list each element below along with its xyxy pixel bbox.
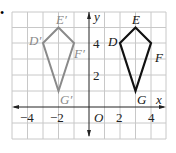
x-axis-arrow-left-icon (12, 105, 19, 109)
y-axis-label: y (92, 9, 100, 24)
y-axis-arrow-up-icon (87, 12, 91, 19)
x-tick-2: 2 (116, 110, 123, 125)
vertex-label-e: E (131, 12, 140, 27)
bullet-mark: • (0, 6, 4, 20)
x-tick-neg2: −2 (50, 110, 64, 125)
coordinate-plane-figure: • y x O −4 −2 2 4 2 4 E′ D′ (0, 0, 176, 153)
y-tick-2: 2 (93, 68, 100, 83)
vertex-label-g-prime: G′ (60, 92, 72, 107)
vertex-label-f-prime: F′ (73, 46, 85, 61)
y-tick-4: 4 (93, 36, 100, 51)
y-axis-arrow-down-icon (87, 130, 91, 137)
vertex-label-e-prime: E′ (55, 12, 67, 27)
origin-label: O (94, 110, 104, 125)
x-tick-neg4: −4 (20, 110, 34, 125)
x-axis-label: x (155, 92, 162, 107)
vertex-label-g: G (137, 92, 147, 107)
vertex-label-d: D (107, 34, 118, 49)
x-tick-4: 4 (148, 110, 155, 125)
vertex-label-d-prime: D′ (28, 33, 41, 48)
vertex-label-f: F (154, 50, 164, 65)
